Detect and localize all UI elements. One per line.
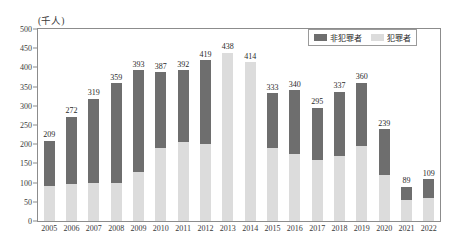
y-axis-tick-mark: [33, 125, 37, 126]
y-axis-tick-mark: [33, 105, 37, 106]
bar-segment-non-offender: [44, 141, 55, 187]
bar-column: 360: [356, 29, 367, 221]
bar-segment-offender: [44, 186, 55, 221]
bar-segment-non-offender: [356, 83, 367, 146]
bar-stack: 340: [289, 90, 300, 221]
x-axis-tick-label: 2018: [332, 224, 348, 233]
bar-column: 340: [289, 29, 300, 221]
bar-stack: 393: [133, 70, 144, 221]
y-axis-tick-label: 350: [20, 82, 32, 91]
bar-stack: 272: [66, 117, 77, 221]
bar-column: 337: [334, 29, 345, 221]
bar-segment-offender: [111, 183, 122, 221]
bar-stack: 419: [200, 60, 211, 221]
bar-stack: 360: [356, 83, 367, 221]
y-axis-tick-label: 250: [20, 121, 32, 130]
bar-segment-offender: [178, 142, 189, 221]
x-axis-tick-label: 2016: [287, 224, 303, 233]
bar-segment-offender: [245, 62, 256, 221]
bar-column: 295: [312, 29, 323, 221]
bar-value-label: 419: [199, 51, 211, 59]
bar-column: 209: [44, 29, 55, 221]
bar-stack: 319: [88, 99, 99, 221]
bar-column: 272: [66, 29, 77, 221]
x-axis-tick-label: 2009: [131, 224, 147, 233]
legend-label: 非犯罪者: [330, 32, 362, 43]
bar-value-label: 360: [356, 73, 368, 81]
bar-value-label: 109: [423, 170, 435, 178]
legend-item[interactable]: 非犯罪者: [314, 32, 362, 43]
bar-value-label: 392: [177, 61, 189, 69]
bar-segment-offender: [133, 172, 144, 221]
bar-stack: 295: [312, 108, 323, 221]
bar-value-label: 337: [333, 82, 345, 90]
bar-segment-non-offender: [312, 108, 323, 160]
y-axis-tick-mark: [33, 86, 37, 87]
bar-segment-non-offender: [200, 60, 211, 144]
y-axis-tick-label: 200: [20, 140, 32, 149]
bar-segment-offender: [222, 53, 233, 221]
x-axis-tick-label: 2019: [354, 224, 370, 233]
bar-column: 419: [200, 29, 211, 221]
bar-stack: 109: [423, 179, 434, 221]
bar-stack: 89: [401, 187, 412, 221]
bar-segment-offender: [200, 144, 211, 221]
bar-segment-non-offender: [267, 93, 278, 148]
bar-value-label: 387: [155, 63, 167, 71]
bar-column: 319: [88, 29, 99, 221]
y-axis-tick-mark: [33, 182, 37, 183]
bar-segment-offender: [289, 154, 300, 221]
bar-segment-non-offender: [401, 187, 412, 200]
y-axis-tick-label: 100: [20, 178, 32, 187]
bar-segment-offender: [334, 156, 345, 221]
bar-value-label: 340: [289, 81, 301, 89]
bar-column: 239: [379, 29, 390, 221]
bars-container: 2092723193593933873924194384143333402953…: [38, 29, 440, 221]
bar-column: 333: [267, 29, 278, 221]
bar-column: 89: [401, 29, 412, 221]
bar-value-label: 414: [244, 53, 256, 61]
bar-column: 392: [178, 29, 189, 221]
legend-label: 犯罪者: [387, 32, 411, 43]
bar-segment-non-offender: [66, 117, 77, 185]
bar-segment-non-offender: [133, 70, 144, 172]
bar-segment-non-offender: [334, 92, 345, 156]
bar-segment-offender: [379, 175, 390, 221]
stacked-bar-chart: (千人) 500450400350300250200150100500 2092…: [0, 0, 451, 242]
bar-segment-offender: [155, 148, 166, 221]
y-axis-unit-label: (千人): [38, 13, 64, 27]
legend-item[interactable]: 犯罪者: [371, 32, 411, 43]
x-axis-tick-label: 2013: [220, 224, 236, 233]
bar-value-label: 272: [65, 107, 77, 115]
bar-value-label: 393: [132, 61, 144, 69]
y-axis-tick-label: 50: [24, 197, 32, 206]
y-axis-tick-label: 150: [20, 159, 32, 168]
bar-segment-non-offender: [379, 129, 390, 175]
bar-value-label: 359: [110, 74, 122, 82]
y-axis: 500450400350300250200150100500: [0, 28, 37, 222]
bar-segment-non-offender: [178, 70, 189, 142]
legend-swatch-dark: [314, 34, 327, 41]
bar-value-label: 295: [311, 98, 323, 106]
y-axis-tick-mark: [33, 221, 37, 222]
bar-segment-non-offender: [88, 99, 99, 183]
y-axis-tick-label: 400: [20, 63, 32, 72]
bar-value-label: 319: [88, 89, 100, 97]
x-axis-tick-label: 2014: [242, 224, 258, 233]
y-axis-tick-label: 0: [28, 217, 32, 226]
bar-segment-offender: [401, 200, 412, 222]
y-axis-tick-mark: [33, 48, 37, 49]
y-axis-tick-mark: [33, 29, 37, 30]
bar-value-label: 89: [402, 177, 410, 185]
bar-stack: 209: [44, 141, 55, 221]
y-axis-tick-mark: [33, 163, 37, 164]
bar-column: 387: [155, 29, 166, 221]
y-axis-tick-mark: [33, 144, 37, 145]
bar-column: 359: [111, 29, 122, 221]
x-axis-tick-label: 2010: [153, 224, 169, 233]
y-axis-tick-label: 500: [20, 25, 32, 34]
x-axis-tick-label: 2021: [399, 224, 415, 233]
bar-stack: 438: [222, 53, 233, 221]
bar-segment-offender: [423, 198, 434, 221]
bar-stack: 414: [245, 62, 256, 221]
